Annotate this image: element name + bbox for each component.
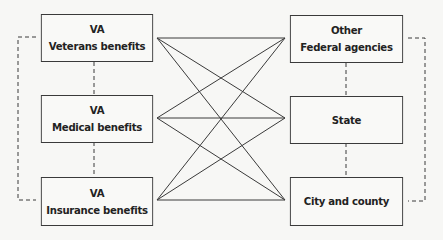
box-line2: Insurance benefits xyxy=(46,202,148,219)
box-line1: Other xyxy=(331,22,362,39)
box-line1: VA xyxy=(90,102,104,119)
box-line1: City and county xyxy=(304,193,389,210)
box-va-veterans-benefits: VA Veterans benefits xyxy=(41,14,153,62)
box-line1: VA xyxy=(90,185,104,202)
box-line2: Federal agencies xyxy=(300,39,392,56)
box-state: State xyxy=(290,96,403,144)
box-va-medical-benefits: VA Medical benefits xyxy=(41,95,153,143)
box-line1: VA xyxy=(90,21,104,38)
box-va-insurance-benefits: VA Insurance benefits xyxy=(41,177,153,226)
box-line2: Veterans benefits xyxy=(49,38,146,55)
box-line2: Medical benefits xyxy=(52,119,142,136)
box-other-federal-agencies: Other Federal agencies xyxy=(290,15,403,63)
box-line1: State xyxy=(332,112,361,129)
box-city-and-county: City and county xyxy=(290,177,403,226)
